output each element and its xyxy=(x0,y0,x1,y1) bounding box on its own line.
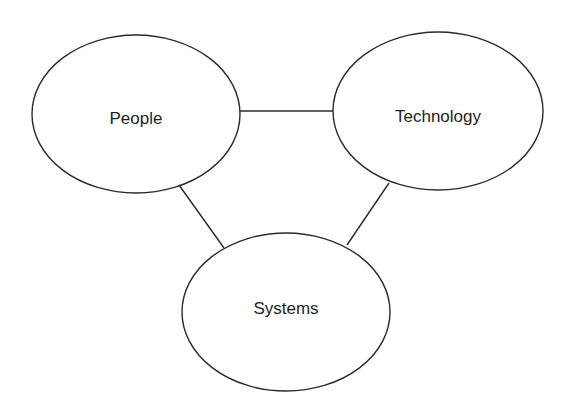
diagram-canvas: People Technology Systems xyxy=(0,0,565,410)
edge-technology-systems xyxy=(347,183,389,245)
node-label-systems: Systems xyxy=(253,299,318,318)
edge-people-systems xyxy=(179,185,224,248)
node-label-people: People xyxy=(110,109,163,128)
node-label-technology: Technology xyxy=(395,107,482,126)
